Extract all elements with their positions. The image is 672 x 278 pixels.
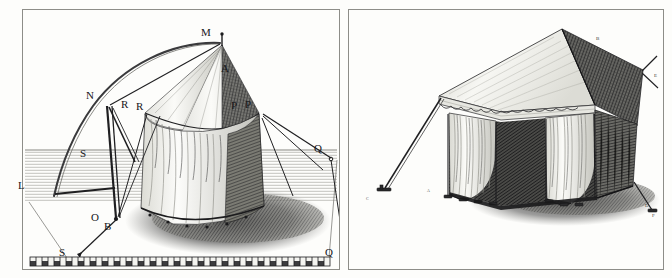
construction-label-right-d: D bbox=[645, 203, 649, 208]
construction-label-left-m: M bbox=[201, 27, 211, 38]
construction-label-left-p2: P bbox=[245, 99, 251, 110]
construction-label-left-r2: R bbox=[136, 101, 143, 112]
construction-label-right-b: B bbox=[596, 36, 599, 41]
construction-label-left-a: A bbox=[221, 63, 229, 74]
construction-label-left-r1: R bbox=[121, 99, 128, 110]
right-panel-frame bbox=[348, 9, 664, 270]
construction-label-left-p1: P bbox=[231, 100, 237, 111]
construction-label-right-c: C bbox=[366, 197, 369, 201]
construction-label-left-n: N bbox=[86, 90, 94, 101]
construction-label-right-e: E bbox=[654, 73, 657, 78]
construction-label-left-s1: S bbox=[80, 148, 86, 159]
construction-label-left-s2: S bbox=[59, 247, 65, 258]
construction-label-right-a: A bbox=[427, 189, 430, 193]
construction-label-left-o: O bbox=[91, 212, 99, 223]
construction-label-left-q1: Q bbox=[314, 143, 322, 154]
construction-label-left-l: L bbox=[18, 180, 25, 191]
construction-label-left-q2: Q bbox=[325, 247, 333, 258]
left-panel-frame bbox=[22, 9, 340, 270]
construction-label-left-b: B bbox=[104, 221, 111, 232]
construction-label-right-f: F bbox=[652, 213, 655, 218]
engraving-plate: MANRRPPSLQOBSQBEACDF bbox=[0, 0, 672, 278]
